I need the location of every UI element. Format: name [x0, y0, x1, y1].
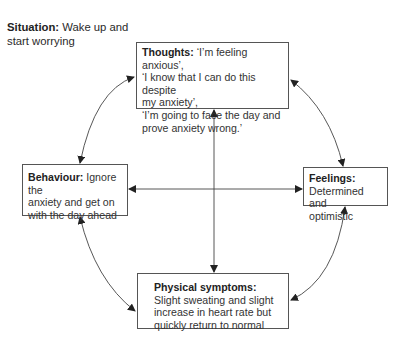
physical-symptoms-box: Physical symptoms: Slight sweating and s… [137, 273, 289, 329]
arrow-behaviour-thoughts [80, 77, 134, 163]
arrow-behaviour-physical [80, 217, 135, 311]
physical-line-1: increase in heart rate but [154, 306, 283, 319]
physical-label: Physical symptoms: [154, 281, 283, 294]
behaviour-box: Behaviour: Ignore the anxiety and get on… [22, 164, 128, 216]
situation-text: Situation: Wake up and start worrying [7, 20, 137, 48]
feelings-box: Feelings: Determined and optimistic [303, 167, 388, 206]
physical-line-0: Slight sweating and slight [154, 294, 283, 307]
behaviour-line-2: with the day ahead [28, 209, 122, 222]
thoughts-line-1: ‘I know that I can do this despite [142, 71, 283, 96]
thoughts-line-4: prove anxiety wrong.’ [142, 122, 283, 135]
behaviour-label: Behaviour: [28, 171, 83, 183]
behaviour-line-1: anxiety and get on [28, 196, 122, 209]
feelings-label: Feelings: [309, 172, 382, 185]
arrow-thoughts-feelings [291, 80, 343, 166]
thoughts-line-2: my anxiety’, [142, 96, 283, 109]
thoughts-line-3: ‘I’m going to face the day and [142, 109, 283, 122]
thoughts-label: Thoughts: [142, 46, 194, 58]
thoughts-box: Thoughts: ‘I’m feeling anxious’, ‘I know… [136, 42, 289, 109]
physical-line-2: quickly return to normal [154, 319, 283, 332]
feelings-line-1: optimistic [309, 210, 382, 223]
feelings-line-0: Determined and [309, 185, 382, 210]
situation-label: Situation: [7, 21, 59, 33]
